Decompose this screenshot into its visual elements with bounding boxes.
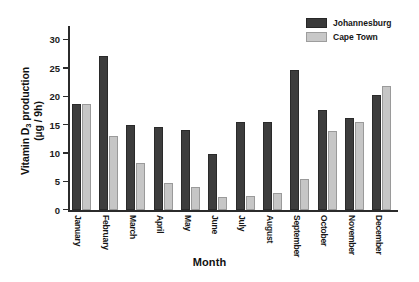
bar-group <box>206 26 233 210</box>
y-axis-tick: 15 <box>63 124 68 125</box>
bar <box>263 122 272 211</box>
bar <box>126 125 135 210</box>
y-axis-title-subscript: 3 <box>24 124 33 128</box>
legend-label-cape-town: Cape Town <box>333 32 378 42</box>
bar-group <box>370 26 397 210</box>
x-axis-tick-label: December <box>374 215 384 255</box>
y-axis-title: Vitamin D3 production (µg / 9h) <box>12 28 52 214</box>
y-axis-tick-label: 5 <box>55 176 60 187</box>
bar-group <box>316 26 343 210</box>
bar <box>154 127 163 210</box>
x-axis-tick-label: April <box>155 215 165 233</box>
y-axis-tick-label: 0 <box>55 204 60 215</box>
bar <box>82 104 91 211</box>
legend-label-johannesburg: Johannesburg <box>333 18 392 28</box>
bar-group <box>152 26 179 210</box>
x-axis-line <box>68 210 398 212</box>
legend-item-johannesburg: Johannesburg <box>306 17 416 28</box>
bar <box>246 196 255 211</box>
bar <box>328 131 337 210</box>
y-axis-title-part2: production <box>19 67 31 124</box>
bar-group <box>234 26 261 210</box>
y-axis-tick-label: 25 <box>49 62 60 73</box>
y-axis-tick: 0 <box>63 209 68 210</box>
x-axis-tick-label: February <box>101 215 111 250</box>
bar-group <box>261 26 288 210</box>
y-axis-tick: 20 <box>63 96 68 97</box>
x-axis-tick-label: August <box>265 215 275 243</box>
bar <box>273 193 282 210</box>
chart-legend: Johannesburg Cape Town <box>306 17 416 45</box>
bar-group <box>70 26 97 210</box>
y-axis-units: (µg / 9h) <box>32 67 44 175</box>
y-axis-tick: 10 <box>63 152 68 153</box>
y-axis-tick-label: 10 <box>49 147 60 158</box>
bar <box>345 118 354 210</box>
x-axis-tick-label: November <box>347 215 357 255</box>
bar <box>164 183 173 211</box>
bar-group <box>97 26 124 210</box>
bar <box>136 163 145 210</box>
bar <box>318 110 327 210</box>
x-axis-tick-label: October <box>319 215 329 246</box>
legend-item-cape-town: Cape Town <box>306 31 416 42</box>
bar-group <box>343 26 370 210</box>
bar <box>181 130 190 210</box>
x-axis-tick-label: September <box>292 215 302 257</box>
bar <box>372 95 381 211</box>
x-axis-tick-label: January <box>73 215 83 246</box>
bar <box>355 122 364 211</box>
x-axis-tick-label: June <box>210 215 220 234</box>
y-axis-tick-label: 20 <box>49 91 60 102</box>
bar <box>218 197 227 210</box>
bar-group <box>179 26 206 210</box>
y-axis-tick-label: 30 <box>49 34 60 45</box>
legend-swatch-icon-johannesburg <box>306 18 327 28</box>
bar-groups <box>70 26 398 210</box>
bar <box>99 56 108 211</box>
legend-swatch-icon-cape-town <box>306 32 327 42</box>
bar-group <box>124 26 151 210</box>
bar <box>382 86 391 210</box>
bar <box>72 104 81 210</box>
plot-area: 051015202530 <box>68 26 398 212</box>
y-axis-tick: 25 <box>63 67 68 68</box>
bar <box>300 179 309 211</box>
y-axis-title-part1: Vitamin D <box>19 128 31 175</box>
bar <box>109 136 118 210</box>
x-axis-tick-label: July <box>237 215 247 231</box>
bar <box>290 70 299 211</box>
y-axis-tick: 30 <box>63 39 68 40</box>
bar-group <box>288 26 315 210</box>
bar <box>208 154 217 210</box>
x-axis-title: Month <box>0 256 419 268</box>
chart-figure: Vitamin D3 production (µg / 9h) 05101520… <box>0 0 419 282</box>
bar <box>191 187 200 210</box>
bar <box>236 122 245 210</box>
y-axis-tick: 5 <box>63 181 68 182</box>
x-axis-tick-label: May <box>183 215 193 231</box>
y-axis-tick-label: 15 <box>49 119 60 130</box>
x-axis-tick-label: March <box>128 215 138 239</box>
